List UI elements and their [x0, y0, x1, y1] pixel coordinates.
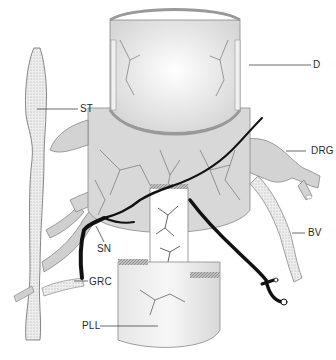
label-grc: GRC	[89, 277, 112, 287]
blood-vessel	[250, 176, 302, 282]
sympathetic-trunk	[14, 48, 47, 340]
dura-cylinder	[110, 10, 240, 135]
label-sn: SN	[97, 244, 111, 254]
label-drg: DRG	[311, 146, 334, 156]
anatomy-diagram	[0, 0, 336, 360]
label-st: ST	[80, 104, 93, 114]
dorsal-root-ganglion	[240, 138, 320, 200]
label-d: D	[313, 60, 320, 70]
inner-block	[150, 184, 188, 270]
label-pll: PLL	[82, 321, 100, 331]
label-bv: BV	[308, 228, 322, 238]
posterior-longitudinal-ligament	[118, 259, 220, 347]
